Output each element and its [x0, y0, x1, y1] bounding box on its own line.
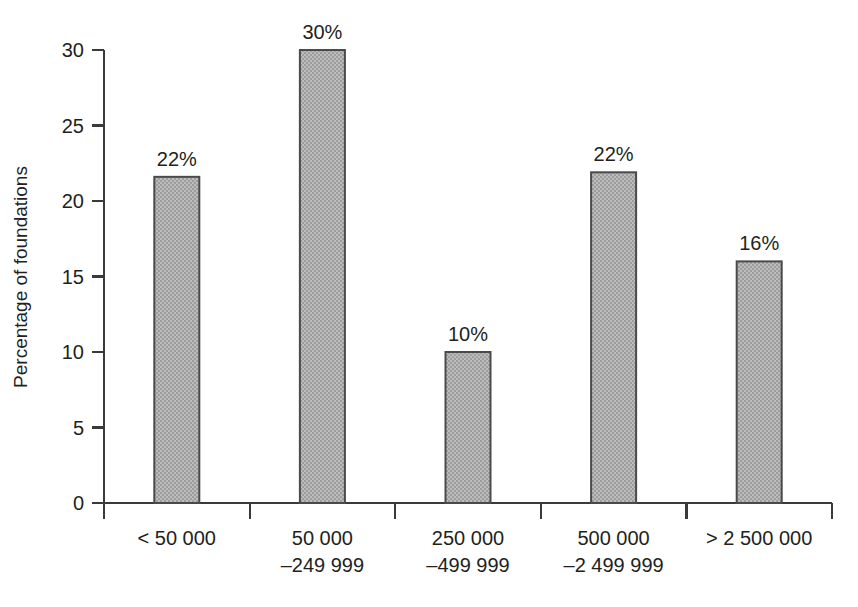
x-category-label: –499 999 — [426, 554, 509, 576]
bar-value-label: 22% — [157, 148, 197, 170]
bar — [591, 172, 636, 503]
bar-value-label: 22% — [594, 143, 634, 165]
x-category-label: > 2 500 000 — [706, 527, 812, 549]
bar — [446, 352, 491, 503]
x-category-label: 250 000 — [432, 527, 504, 549]
bar — [300, 50, 345, 503]
x-category-label: < 50 000 — [138, 527, 216, 549]
y-tick-label: 20 — [62, 190, 84, 212]
bar-chart: 051015202530 22%30%10%22%16% < 50 00050 … — [0, 0, 858, 607]
y-tick-label: 15 — [62, 266, 84, 288]
y-tick-label: 25 — [62, 115, 84, 137]
x-category-label: –2 499 999 — [564, 554, 664, 576]
bar — [737, 261, 782, 503]
y-tick-label: 0 — [73, 492, 84, 514]
y-axis-title: Percentage of foundations — [10, 166, 31, 388]
bar-value-label: 10% — [448, 323, 488, 345]
x-category-label: 50 000 — [292, 527, 353, 549]
y-axis-title-group: Percentage of foundations — [10, 166, 31, 388]
x-category-label: 500 000 — [577, 527, 649, 549]
bar-value-label: 30% — [302, 21, 342, 43]
chart-canvas: 051015202530 22%30%10%22%16% < 50 00050 … — [0, 0, 858, 607]
bar — [154, 177, 199, 503]
bar-value-label: 16% — [739, 232, 779, 254]
x-category-label: –249 999 — [281, 554, 364, 576]
y-tick-label: 5 — [73, 417, 84, 439]
y-tick-label: 30 — [62, 39, 84, 61]
y-tick-label: 10 — [62, 341, 84, 363]
plot-background — [0, 0, 858, 607]
